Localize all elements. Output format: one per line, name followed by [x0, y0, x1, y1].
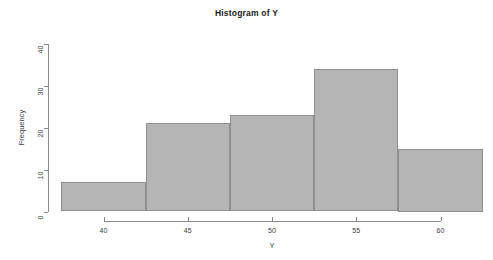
y-axis-tick-label: 40	[36, 42, 43, 56]
x-axis-tick	[441, 217, 442, 221]
y-axis-tick-label: 0	[36, 210, 43, 224]
x-axis-tick	[188, 217, 189, 221]
y-axis-tick-label: 10	[36, 168, 43, 182]
x-axis-tick	[104, 217, 105, 221]
y-axis-tick	[44, 212, 48, 213]
y-axis-tick	[44, 44, 48, 45]
histogram-bar	[230, 115, 314, 212]
y-axis-tick	[44, 128, 48, 129]
y-axis-tick	[44, 170, 48, 171]
y-axis-tick-label: 30	[36, 84, 43, 98]
histogram-bar	[146, 123, 230, 211]
x-axis-tick	[356, 217, 357, 221]
x-axis-tick-label: 40	[100, 227, 108, 234]
y-axis-line	[48, 44, 49, 212]
histogram-bar	[398, 149, 482, 212]
x-axis-label: Y	[269, 241, 274, 250]
x-axis-tick-label: 60	[437, 227, 445, 234]
x-axis-tick-label: 50	[268, 227, 276, 234]
y-axis-label: Frequency	[16, 92, 25, 162]
x-axis-tick-label: 45	[184, 227, 192, 234]
histogram-plot: Histogram of Y 010203040Frequency4045505…	[0, 0, 493, 260]
x-axis-tick	[272, 217, 273, 221]
x-axis-tick-label: 55	[352, 227, 360, 234]
y-axis-tick-label: 20	[36, 126, 43, 140]
x-axis-line	[104, 221, 441, 222]
y-axis-tick	[44, 86, 48, 87]
histogram-bar	[314, 69, 398, 212]
histogram-bar	[61, 182, 145, 211]
plot-panel: 010203040Frequency4045505560Y	[0, 0, 493, 260]
